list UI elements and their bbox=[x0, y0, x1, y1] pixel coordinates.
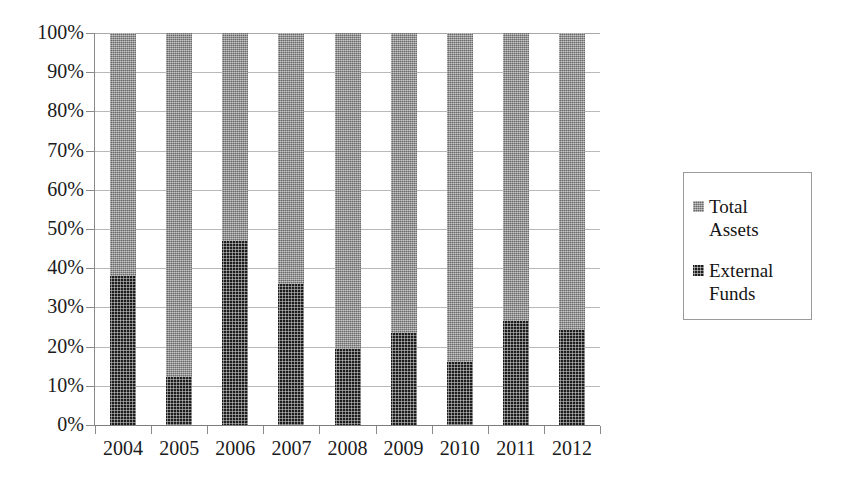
y-axis-tick-mark bbox=[86, 151, 95, 152]
y-axis-tick-mark bbox=[86, 425, 95, 426]
y-axis-tick-mark bbox=[86, 190, 95, 191]
x-axis-tick-mark bbox=[432, 426, 433, 434]
x-axis-tick-mark bbox=[319, 426, 320, 434]
bar-group-2008 bbox=[335, 33, 361, 425]
x-axis-tick-mark bbox=[207, 426, 208, 434]
stacked-bar-chart: 0%10%20%30%40%50%60%70%80%90%100% 200420… bbox=[0, 0, 847, 480]
y-axis-tick-mark bbox=[86, 268, 95, 269]
x-axis-tick-mark bbox=[544, 426, 545, 434]
y-axis-tick-label: 40% bbox=[22, 257, 84, 277]
y-axis-tick-label: 30% bbox=[22, 296, 84, 316]
y-axis-tick-label: 100% bbox=[22, 22, 84, 42]
bar-segment-external-funds-2006 bbox=[222, 241, 248, 425]
bar-segment-total-assets-2012 bbox=[559, 33, 585, 330]
y-axis-tick-mark bbox=[86, 229, 95, 230]
y-axis-tick-label: 90% bbox=[22, 61, 84, 81]
legend-label-total-assets: Total Assets bbox=[709, 195, 759, 241]
y-axis-tick-mark bbox=[86, 33, 95, 34]
y-axis-tick-label: 60% bbox=[22, 179, 84, 199]
bar-segment-total-assets-2004 bbox=[110, 33, 136, 276]
legend-item-total-assets: Total Assets bbox=[693, 195, 759, 241]
bar-group-2010 bbox=[447, 33, 473, 425]
chart-legend: Total Assets External Funds bbox=[683, 172, 812, 320]
bar-segment-external-funds-2010 bbox=[447, 362, 473, 425]
legend-swatch-total-assets-icon bbox=[693, 201, 704, 212]
gridline bbox=[95, 425, 600, 426]
bar-segment-total-assets-2007 bbox=[278, 33, 304, 284]
bar-segment-total-assets-2008 bbox=[335, 33, 361, 349]
y-axis-tick-mark bbox=[86, 111, 95, 112]
y-axis-tick-label: 80% bbox=[22, 100, 84, 120]
bar-group-2012 bbox=[559, 33, 585, 425]
bar-group-2009 bbox=[391, 33, 417, 425]
bar-segment-external-funds-2007 bbox=[278, 284, 304, 425]
y-axis-tick-mark bbox=[86, 307, 95, 308]
y-axis-tick-label: 20% bbox=[22, 336, 84, 356]
x-axis-tick-mark bbox=[488, 426, 489, 434]
bar-segment-total-assets-2006 bbox=[222, 33, 248, 241]
bar-group-2005 bbox=[166, 33, 192, 425]
y-axis-tick-label: 70% bbox=[22, 140, 84, 160]
legend-item-external-funds: External Funds bbox=[693, 259, 773, 305]
bar-segment-external-funds-2012 bbox=[559, 330, 585, 425]
legend-swatch-external-funds-icon bbox=[693, 265, 704, 276]
bar-segment-total-assets-2009 bbox=[391, 33, 417, 333]
y-axis-tick-label: 50% bbox=[22, 218, 84, 238]
y-axis-tick-labels: 0%10%20%30%40%50%60%70%80%90%100% bbox=[22, 0, 84, 480]
plot-area bbox=[95, 33, 600, 425]
bar-group-2006 bbox=[222, 33, 248, 425]
bar-segment-external-funds-2005 bbox=[166, 377, 192, 425]
bar-segment-external-funds-2008 bbox=[335, 349, 361, 425]
y-axis-tick-mark bbox=[86, 386, 95, 387]
x-axis-tick-mark bbox=[600, 426, 601, 434]
bar-group-2007 bbox=[278, 33, 304, 425]
bar-segment-external-funds-2009 bbox=[391, 333, 417, 425]
x-axis-tick-label: 2012 bbox=[537, 437, 607, 459]
y-axis-tick-label: 10% bbox=[22, 375, 84, 395]
bar-group-2004 bbox=[110, 33, 136, 425]
y-axis-tick-mark bbox=[86, 347, 95, 348]
legend-label-external-funds: External Funds bbox=[709, 259, 773, 305]
bar-segment-total-assets-2005 bbox=[166, 33, 192, 377]
bar-segment-external-funds-2004 bbox=[110, 276, 136, 425]
y-axis-tick-label: 0% bbox=[22, 414, 84, 434]
bar-segment-external-funds-2011 bbox=[503, 321, 529, 425]
x-axis-tick-mark bbox=[263, 426, 264, 434]
x-axis-tick-mark bbox=[151, 426, 152, 434]
x-axis-tick-mark bbox=[95, 426, 96, 434]
x-axis-tick-mark bbox=[376, 426, 377, 434]
bar-group-2011 bbox=[503, 33, 529, 425]
bar-segment-total-assets-2011 bbox=[503, 33, 529, 321]
y-axis-tick-mark bbox=[86, 72, 95, 73]
bar-segment-total-assets-2010 bbox=[447, 33, 473, 362]
